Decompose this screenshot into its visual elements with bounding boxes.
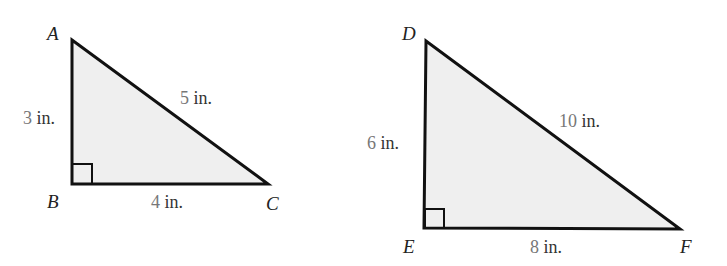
figure-canvas: A B C 3 in. 4 in. 5 in. D E F 6 in. 8 in… [0, 0, 727, 266]
vertex-label-b: B [47, 191, 59, 212]
vertex-label-e: E [402, 236, 415, 257]
side-label-bc: 4 in. [151, 192, 183, 212]
side-label-df: 10 in. [559, 111, 600, 131]
triangle-abc: A B C 3 in. 4 in. 5 in. [23, 23, 279, 214]
vertex-label-c: C [266, 193, 279, 214]
triangle-abc-shape [72, 40, 268, 184]
triangle-def-shape [424, 41, 680, 229]
vertex-label-a: A [45, 23, 59, 44]
triangle-def: D E F 6 in. 8 in. 10 in. [367, 23, 692, 257]
vertex-label-f: F [679, 236, 692, 257]
side-label-ef: 8 in. [530, 237, 562, 257]
side-label-ac: 5 in. [180, 88, 212, 108]
vertex-label-d: D [401, 23, 416, 44]
side-label-de: 6 in. [367, 133, 399, 153]
side-label-ab: 3 in. [23, 108, 55, 128]
